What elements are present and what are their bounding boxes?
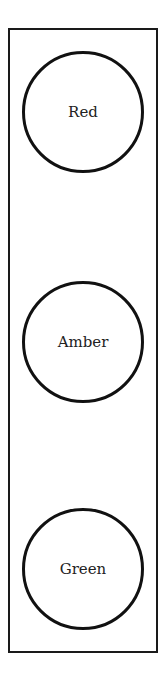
light-amber: Amber: [22, 281, 144, 403]
light-green: Green: [22, 508, 144, 630]
light-red: Red: [22, 51, 144, 173]
light-red-label: Red: [68, 103, 98, 121]
light-amber-label: Amber: [58, 333, 109, 351]
light-green-label: Green: [60, 560, 107, 578]
